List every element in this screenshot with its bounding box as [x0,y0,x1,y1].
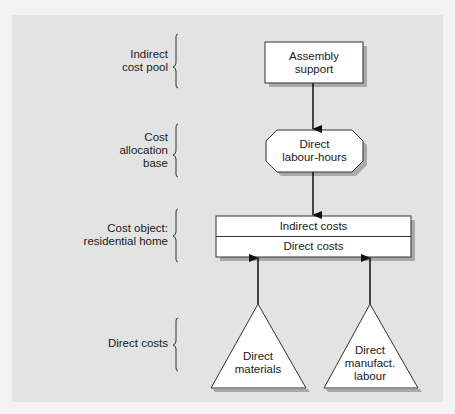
brace-allocation-base-icon [173,124,178,177]
text-line: Direct [330,344,410,357]
assembly-support-text: Assembly support [265,50,363,76]
edges [258,83,370,304]
text-line: labour [330,370,410,383]
text-line: Direct [266,138,363,151]
indirect-costs-row: Indirect costs [216,220,411,233]
brace-cost-object-icon [173,209,178,262]
text-line: support [265,63,363,76]
level-label-cost-object: Cost object: residential home [8,222,168,248]
direct-costs-row: Direct costs [216,240,411,253]
direct-labour-hours-text: Direct labour-hours [266,138,363,164]
level-label-indirect-cost-pool: Indirect cost pool [8,48,168,74]
direct-manufact-labour-text: Direct manufact. labour [330,344,410,383]
label-line: Indirect [8,48,168,61]
label-line: Cost [8,131,168,144]
brace-indirect-cost-pool-icon [173,34,178,88]
label-line: Cost object: [8,222,168,235]
label-line: allocation [8,144,168,157]
brace-icons [173,34,178,371]
level-label-direct-costs: Direct costs [8,337,168,350]
label-line: cost pool [8,61,168,74]
text-line: labour-hours [266,151,363,164]
level-label-cost-allocation-base: Cost allocation base [8,131,168,170]
label-line: Direct costs [8,337,168,350]
direct-materials-text: Direct materials [218,350,298,376]
text-line: Assembly [265,50,363,63]
label-line: base [8,157,168,170]
brace-direct-costs-icon [173,318,178,371]
text-line: materials [218,363,298,376]
text-line: Direct [218,350,298,363]
label-line: residential home [8,235,168,248]
text-line: manufact. [330,357,410,370]
